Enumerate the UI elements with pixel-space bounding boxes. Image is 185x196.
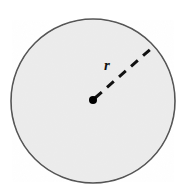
circle-radius-figure: r (0, 0, 185, 196)
figure-canvas: r (0, 0, 185, 196)
center-dot (89, 96, 97, 104)
radius-label: r (104, 57, 110, 73)
